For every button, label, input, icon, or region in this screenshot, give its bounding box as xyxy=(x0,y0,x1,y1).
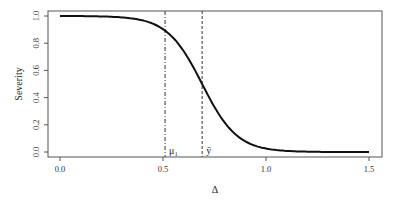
y-axis: 0.00.20.40.60.81.0 xyxy=(31,11,48,158)
plot-frame xyxy=(48,11,382,157)
y-tick-label: 0.8 xyxy=(31,38,41,49)
severity-curve xyxy=(60,16,369,152)
reference-lines: μ₁ȳ xyxy=(165,11,211,157)
x-tick-label: 1.5 xyxy=(364,164,375,174)
y-tick-label: 0.2 xyxy=(31,119,41,130)
y-tick-label: 1.0 xyxy=(31,11,41,22)
reference-line-label: μ₁ xyxy=(169,145,178,156)
x-tick-label: 0.0 xyxy=(55,164,66,174)
x-tick-label: 0.5 xyxy=(158,164,169,174)
x-tick-label: 1.0 xyxy=(261,164,272,174)
y-axis-label: Severity xyxy=(13,67,24,100)
y-tick-label: 0.0 xyxy=(31,147,41,158)
severity-chart: 0.00.51.01.5 0.00.20.40.60.81.0 μ₁ȳ Δ Se… xyxy=(0,0,396,201)
y-tick-label: 0.4 xyxy=(31,92,41,103)
x-axis-label: Δ xyxy=(212,184,219,195)
reference-line-label: ȳ xyxy=(206,145,211,156)
x-axis: 0.00.51.01.5 xyxy=(55,157,375,174)
y-tick-label: 0.6 xyxy=(31,65,41,76)
